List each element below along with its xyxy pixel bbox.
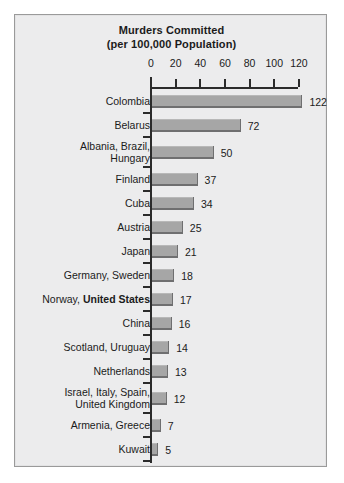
category-label-text: Austria — [10, 221, 150, 233]
category-label-text: Finland — [10, 173, 150, 185]
category-label: China — [10, 317, 150, 329]
bar-value-label: 14 — [176, 342, 188, 354]
bar-value-label: 122 — [309, 96, 327, 108]
bar-value-label: 72 — [248, 120, 260, 132]
category-label: Belarus — [10, 119, 150, 131]
y-axis-row-tick — [143, 460, 151, 462]
category-label-text: Israel, Italy, Spain, — [10, 386, 150, 398]
bar — [152, 197, 194, 210]
chart-panel: Murders Committed (per 100,000 Populatio… — [14, 14, 327, 467]
category-label: Germany, Sweden — [10, 269, 150, 281]
bar-highlight-edge — [152, 392, 166, 393]
bar-value-label: 37 — [205, 174, 217, 186]
x-axis-tick-label: 0 — [148, 57, 154, 69]
x-axis-tick-labels: 020406080100120 — [15, 57, 328, 73]
bar — [152, 341, 169, 354]
bar-value-label: 12 — [174, 393, 186, 405]
bar-highlight-edge — [152, 341, 168, 342]
bar-highlight-edge — [152, 245, 177, 246]
bar-highlight-edge — [152, 173, 197, 174]
chart-title-line-2: (per 100,000 Population) — [15, 37, 328, 51]
category-label: Netherlands — [10, 365, 150, 377]
category-label-text: China — [10, 317, 150, 329]
x-axis-tick-mark — [224, 79, 226, 87]
x-axis-tick-label: 80 — [244, 57, 256, 69]
bar — [152, 146, 214, 159]
chart-figure: Murders Committed (per 100,000 Populatio… — [0, 0, 344, 483]
x-axis-tick-label: 60 — [219, 57, 231, 69]
bar-value-label: 34 — [201, 198, 213, 210]
x-axis-tick-mark — [273, 79, 275, 87]
bar-row: Germany, Sweden18 — [15, 263, 328, 287]
bar — [152, 293, 173, 306]
bar-value-label: 7 — [168, 420, 174, 432]
bar — [152, 173, 198, 186]
category-label-text: United Kingdom — [10, 398, 150, 410]
bar-row: Finland37 — [15, 167, 328, 191]
category-label-text: Netherlands — [10, 365, 150, 377]
bar-row: Scotland, Uruguay14 — [15, 335, 328, 359]
category-label: Colombia — [10, 95, 150, 107]
category-label: Cuba — [10, 197, 150, 209]
bar-row: Belarus72 — [15, 113, 328, 137]
bar — [152, 245, 178, 258]
bar-value-label: 17 — [180, 294, 192, 306]
x-axis-tick-mark — [150, 79, 152, 87]
x-axis-tick-label: 20 — [170, 57, 182, 69]
chart-title-line-1: Murders Committed — [15, 23, 328, 37]
x-axis-tick-label: 100 — [266, 57, 284, 69]
x-axis-tick-label: 40 — [194, 57, 206, 69]
bar-value-label: 16 — [179, 318, 191, 330]
bar-value-label: 5 — [165, 444, 171, 456]
category-label-text: Cuba — [10, 197, 150, 209]
category-label: Japan — [10, 245, 150, 257]
bar-highlight-edge — [152, 269, 173, 270]
category-label: Scotland, Uruguay — [10, 341, 150, 353]
bar-row: China16 — [15, 311, 328, 335]
bar-highlight-edge — [152, 221, 182, 222]
bar-value-label: 50 — [221, 147, 233, 159]
bar-highlight-edge — [152, 197, 193, 198]
bar-value-label: 21 — [185, 246, 197, 258]
bar-highlight-edge — [152, 146, 213, 147]
category-label-text: Hungary — [10, 152, 150, 164]
bar-highlight-edge — [152, 119, 240, 120]
x-axis-tick-label: 120 — [290, 57, 308, 69]
bar-row: Austria25 — [15, 215, 328, 239]
category-label: Finland — [10, 173, 150, 185]
bar — [152, 269, 174, 282]
bar — [152, 419, 161, 432]
bar-row: Netherlands13 — [15, 359, 328, 383]
bar-value-label: 18 — [181, 270, 193, 282]
x-axis-tick-mark — [249, 79, 251, 87]
bar — [152, 365, 168, 378]
bar-row: Armenia, Greece7 — [15, 413, 328, 437]
bar-highlight-edge — [152, 365, 167, 366]
category-label: Albania, Brazil,Hungary — [10, 140, 150, 164]
category-label-text: Albania, Brazil, — [10, 140, 150, 152]
category-label-highlight: United States — [83, 293, 150, 305]
category-label-text: Scotland, Uruguay — [10, 341, 150, 353]
bar — [152, 95, 302, 108]
category-label-text: Kuwait — [10, 443, 150, 455]
category-label-text: Japan — [10, 245, 150, 257]
bar-row: Colombia122 — [15, 89, 328, 113]
x-axis-tick-mark — [199, 79, 201, 87]
bar — [152, 392, 167, 405]
bar-value-label: 13 — [175, 366, 187, 378]
bar-highlight-edge — [152, 293, 172, 294]
bar-row: Albania, Brazil,Hungary50 — [15, 137, 328, 167]
category-label: Austria — [10, 221, 150, 233]
x-axis-tick-mark — [175, 79, 177, 87]
category-label: Armenia, Greece — [10, 419, 150, 431]
category-label: Israel, Italy, Spain,United Kingdom — [10, 386, 150, 410]
bar — [152, 221, 183, 234]
bar — [152, 443, 158, 456]
bar-row: Cuba34 — [15, 191, 328, 215]
chart-title: Murders Committed (per 100,000 Populatio… — [15, 23, 328, 51]
category-label: Kuwait — [10, 443, 150, 455]
bar-highlight-edge — [152, 95, 301, 96]
bar-value-label: 25 — [190, 222, 202, 234]
category-label-text: Norway, — [42, 293, 83, 305]
bar-highlight-edge — [152, 317, 171, 318]
